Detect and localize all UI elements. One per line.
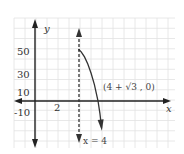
function-graph: y x 2 50 30 10 -10 (4 + √3 , 0) x = 4 [0,0,184,154]
y-tick-label-neg10: -10 [14,107,30,118]
x-axis-label: x [166,103,172,114]
asymptote-top-arrow [76,28,82,37]
asymptote-bottom-arrow [76,134,82,143]
y-axis-label: y [43,23,50,34]
x-axis-left-arrow [14,98,22,104]
point-label: (4 + √3 , 0) [103,82,155,92]
curve-path [79,50,102,128]
asymptote-label: x = 4 [83,136,107,146]
y-axis-bottom-arrow [32,139,38,148]
labels: y x 2 50 30 10 -10 (4 + √3 , 0) x = 4 [14,23,172,146]
curve-start-point [78,49,80,51]
y-tick-label-10: 10 [17,87,30,98]
y-tick-label-30: 30 [17,69,30,80]
curve-end-arrow [98,119,104,130]
x-tick-label: 2 [54,102,60,113]
asymptote [76,28,82,143]
y-axis-top-arrow [32,19,38,28]
y-tick-label-50: 50 [17,46,30,57]
